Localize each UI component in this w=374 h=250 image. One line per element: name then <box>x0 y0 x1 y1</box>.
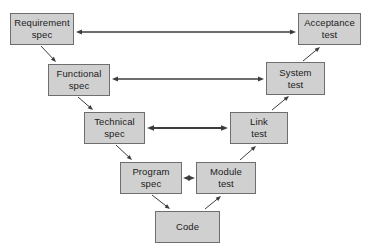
node-label-primary: Acceptance <box>304 17 355 29</box>
connector-technical-spec-to-link-test <box>147 125 228 131</box>
connector-program-spec-to-module-test <box>183 175 195 181</box>
node-link-test[interactable]: Linktest <box>230 112 288 144</box>
connector-module-test-to-link-test <box>240 146 256 160</box>
connector-program-spec-to-code <box>152 195 170 209</box>
node-label-secondary: spec <box>69 80 89 92</box>
node-requirement-spec[interactable]: Requirementspec <box>10 13 74 45</box>
connector-code-to-module-test <box>205 196 221 209</box>
node-label-primary: Code <box>176 221 199 233</box>
node-label-primary: System <box>279 67 311 79</box>
connector-link-test-to-system-test <box>272 96 289 110</box>
node-module-test[interactable]: Moduletest <box>196 162 256 194</box>
connector-requirement-spec-to-functional-spec <box>41 46 56 62</box>
node-label-primary: Functional <box>57 68 102 80</box>
node-label-secondary: spec <box>104 128 124 140</box>
node-label-secondary: test <box>218 178 234 190</box>
node-label-secondary: spec <box>141 178 161 190</box>
node-technical-spec[interactable]: Technicalspec <box>84 112 145 144</box>
node-label-primary: Link <box>250 116 268 128</box>
node-label-secondary: test <box>288 79 304 91</box>
node-label-primary: Technical <box>94 116 135 128</box>
node-system-test[interactable]: Systemtest <box>266 62 325 95</box>
connector-functional-spec-to-technical-spec <box>78 97 93 110</box>
node-label-secondary: spec <box>32 29 52 41</box>
node-code[interactable]: Code <box>155 211 220 243</box>
node-program-spec[interactable]: Programspec <box>120 162 182 194</box>
connector-requirement-spec-to-acceptance-test <box>76 30 296 35</box>
connector-system-test-to-acceptance-test <box>303 47 320 61</box>
node-label-secondary: test <box>322 29 338 41</box>
node-label-secondary: test <box>251 128 267 140</box>
node-label-primary: Requirement <box>14 17 70 29</box>
node-label-primary: Module <box>210 166 242 178</box>
node-label-primary: Program <box>132 166 169 178</box>
v-model-diagram: RequirementspecAcceptancetestFunctionals… <box>0 0 374 250</box>
connector-technical-spec-to-program-spec <box>116 145 132 160</box>
node-functional-spec[interactable]: Functionalspec <box>48 64 110 96</box>
connector-functional-spec-to-system-test <box>112 77 264 82</box>
node-acceptance-test[interactable]: Acceptancetest <box>298 13 361 45</box>
